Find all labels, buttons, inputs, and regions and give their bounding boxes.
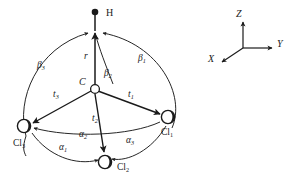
- bond-label-t3: t3: [53, 89, 59, 100]
- bond-label-t1: t1: [128, 89, 134, 100]
- axis-label-y: Y: [277, 38, 284, 49]
- arc-alpha3: [112, 126, 166, 159]
- axis-x-line: [222, 48, 243, 62]
- angle-label-beta2: β2: [103, 68, 112, 79]
- angle-label-alpha3: α3: [126, 135, 134, 146]
- beta-arc-group: [24, 33, 176, 156]
- atom-c: [91, 85, 100, 94]
- bond-label-t2: t2: [92, 113, 98, 124]
- atom-label-h: H: [106, 7, 113, 18]
- atom-label-cl2: Cl2: [117, 162, 129, 173]
- angle-label-beta1: β1: [137, 53, 146, 64]
- axis-legend: Z Y X: [207, 8, 284, 64]
- atom-cl3: [17, 119, 30, 132]
- atom-label-c: C: [79, 76, 86, 87]
- bond-c-cl3: [33, 91, 91, 123]
- angle-label-alpha2: α2: [79, 129, 87, 140]
- bond-label-r: r: [84, 51, 88, 61]
- atom-cl2: [98, 155, 111, 168]
- axis-label-z: Z: [236, 8, 242, 19]
- angle-label-alpha1: α1: [59, 142, 67, 153]
- atom-h: [92, 9, 99, 16]
- alpha-arc-group: [32, 122, 166, 162]
- atom-label-cl3: Cl3: [13, 138, 25, 149]
- atom-cl1: [161, 110, 174, 123]
- molecular-geometry-figure: H C Cl1 Cl2 Cl3 r t1 t2 t3 α1 α2 α3 β1 β…: [0, 0, 297, 185]
- figure-canvas: H C Cl1 Cl2 Cl3 r t1 t2 t3 α1 α2 α3 β1 β…: [0, 0, 297, 185]
- atom-label-cl1: Cl1: [161, 127, 173, 138]
- axis-label-x: X: [207, 53, 215, 64]
